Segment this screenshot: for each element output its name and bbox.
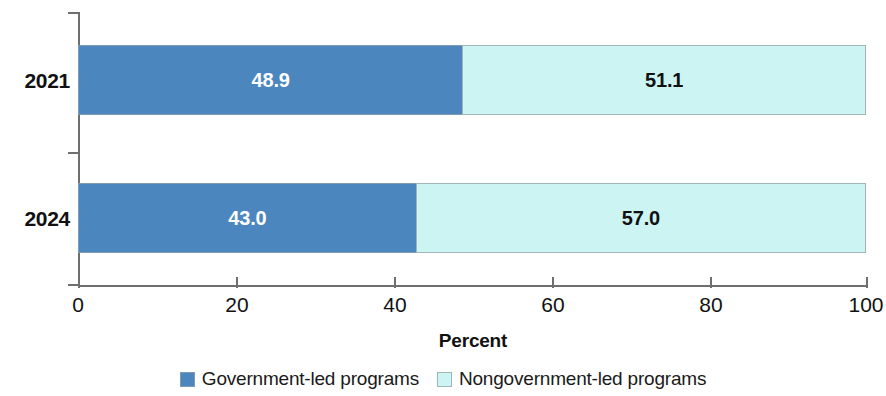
bar-row-2021: 48.9 51.1 [78,45,866,115]
bar-row-2024: 43.0 57.0 [78,183,866,253]
chart-legend: Government-led programs Nongovernment-le… [0,368,886,390]
legend-item-government[interactable]: Government-led programs [180,368,419,390]
bar-value-government-2024: 43.0 [228,208,266,228]
bar-value-nongovernment-2021: 51.1 [645,70,683,90]
x-axis-title: Percent [78,330,868,352]
y-axis-tick-middle [68,152,79,154]
bar-value-nongovernment-2024: 57.0 [622,208,660,228]
x-axis-tick-40 [394,277,396,288]
legend-label-nongovernment: Nongovernment-led programs [459,368,706,390]
x-axis-label-80: 80 [671,293,751,317]
y-axis-tick-top [68,12,79,14]
x-axis-tick-0 [78,277,80,288]
x-axis-label-60: 60 [513,293,593,317]
category-label-2021: 2021 [8,69,70,93]
x-axis-line [78,285,868,287]
bar-segment-nongovernment-2024[interactable]: 57.0 [416,183,866,253]
legend-label-government: Government-led programs [202,368,419,390]
bar-segment-government-2024[interactable]: 43.0 [78,183,417,253]
x-axis-label-100: 100 [826,293,886,317]
category-label-2024: 2024 [8,207,70,231]
bar-value-government-2021: 48.9 [252,70,290,90]
x-axis-tick-80 [710,277,712,288]
x-axis-label-40: 40 [355,293,435,317]
legend-swatch-icon-government [180,372,195,387]
x-axis-tick-60 [552,277,554,288]
x-axis-tick-100 [866,277,868,288]
bar-segment-nongovernment-2021[interactable]: 51.1 [462,45,866,115]
x-axis-label-20: 20 [197,293,277,317]
x-axis-tick-20 [236,277,238,288]
plot-area: 2021 2024 48.9 51.1 43.0 57.0 0 20 40 60… [0,0,886,396]
legend-item-nongovernment[interactable]: Nongovernment-led programs [437,368,706,390]
legend-swatch-icon-nongovernment [437,372,452,387]
stacked-bar-chart: 2021 2024 48.9 51.1 43.0 57.0 0 20 40 60… [0,0,886,396]
x-axis-label-0: 0 [38,293,118,317]
bar-segment-government-2021[interactable]: 48.9 [78,45,463,115]
